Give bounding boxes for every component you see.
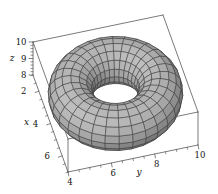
- x-axis-tick-label: 2: [21, 86, 26, 96]
- plot-canvas: 891024646810xzy: [0, 0, 218, 194]
- x-axis-label: x: [24, 117, 29, 127]
- z-axis-tick-label: 8: [21, 70, 26, 80]
- x-axis-tick-label: 4: [33, 119, 38, 129]
- y-axis-tick-label: 6: [111, 168, 116, 178]
- plot-background: [0, 0, 218, 194]
- y-axis-tick-label: 8: [154, 159, 159, 169]
- y-axis-tick-label: 10: [195, 150, 206, 160]
- x-axis-tick-label: 6: [44, 151, 49, 161]
- z-axis-tick-label: 9: [21, 54, 26, 64]
- y-axis-label: y: [135, 167, 142, 177]
- y-axis-tick-label: 4: [67, 177, 72, 187]
- torus-3d-plot: 891024646810xzy: [0, 0, 218, 194]
- z-axis-label: z: [9, 53, 15, 63]
- z-axis-tick-label: 10: [16, 37, 27, 47]
- torus-plot-svg: 891024646810xzy: [0, 0, 218, 194]
